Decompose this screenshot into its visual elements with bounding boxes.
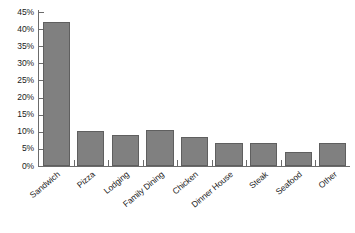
bar xyxy=(319,143,346,166)
bar-slot xyxy=(108,12,143,166)
bar-series xyxy=(39,12,350,166)
x-axis-tick xyxy=(143,160,144,166)
x-axis-tick xyxy=(281,160,282,166)
bar-slot xyxy=(74,12,109,166)
bar xyxy=(215,143,242,166)
y-axis-tick xyxy=(39,166,44,167)
x-axis-line xyxy=(38,166,350,167)
bar xyxy=(43,22,70,166)
bar xyxy=(250,143,277,166)
bar-slot xyxy=(212,12,247,166)
x-axis-label-slot: Pizza xyxy=(74,168,109,232)
x-axis-tick xyxy=(246,160,247,166)
x-axis-tick xyxy=(74,160,75,166)
x-axis-tick-label: Other xyxy=(317,170,339,190)
bar xyxy=(181,137,208,166)
x-axis-tick-label: Pizza xyxy=(75,170,96,190)
x-axis-tick-label: Steak xyxy=(247,170,269,191)
x-axis-label-slot: Seafood xyxy=(281,168,316,232)
bar xyxy=(285,152,312,166)
y-axis-tick-label: 20% xyxy=(2,93,34,102)
bar-slot xyxy=(281,12,316,166)
y-axis-tick-label: 10% xyxy=(2,127,34,136)
y-axis-labels: 45% 40% 35% 30% 25% 20% 15% 10% 5% 0% xyxy=(0,0,34,233)
y-axis-tick-label: 15% xyxy=(2,110,34,119)
bar-slot xyxy=(177,12,212,166)
y-axis-tick-label: 35% xyxy=(2,42,34,51)
x-axis-label-slot: Steak xyxy=(246,168,281,232)
bar xyxy=(112,135,139,166)
x-axis-label-slot: Other xyxy=(315,168,350,232)
x-axis-label-slot: Family Dining xyxy=(143,168,178,232)
bar-slot xyxy=(39,12,74,166)
bar-slot xyxy=(246,12,281,166)
y-axis-tick-label: 25% xyxy=(2,76,34,85)
x-axis-label-slot: Sandwich xyxy=(39,168,74,232)
bar-slot xyxy=(316,12,351,166)
x-axis-tick xyxy=(212,160,213,166)
y-axis-tick-label: 30% xyxy=(2,59,34,68)
x-axis-labels: SandwichPizzaLodgingFamily DiningChicken… xyxy=(39,168,350,232)
bar-chart: 45% 40% 35% 30% 25% 20% 15% 10% 5% 0% Sa… xyxy=(0,0,355,233)
x-axis-label-slot: Dinner House xyxy=(212,168,247,232)
bar xyxy=(146,130,173,166)
bar xyxy=(77,131,104,166)
y-axis-tick-label: 40% xyxy=(2,25,34,34)
y-axis-tick-label: 5% xyxy=(2,144,34,153)
x-axis-tick xyxy=(177,160,178,166)
x-axis-tick xyxy=(108,160,109,166)
x-axis-tick xyxy=(315,160,316,166)
bar-slot xyxy=(143,12,178,166)
y-axis-tick-label: 45% xyxy=(2,8,34,17)
y-axis-tick-label: 0% xyxy=(2,162,34,171)
